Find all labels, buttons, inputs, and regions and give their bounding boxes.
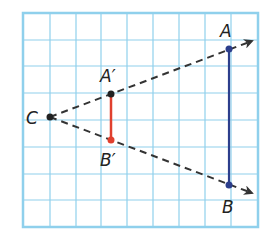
point-a	[226, 46, 233, 53]
point-b-prime	[108, 137, 115, 144]
label-c: C	[26, 108, 38, 128]
label-a: A	[219, 21, 232, 41]
label-b: B	[222, 197, 234, 217]
dilation-diagram: C A B A′ B′	[0, 0, 264, 238]
ray-cb	[50, 117, 252, 193]
point-b	[226, 182, 233, 189]
label-a-prime: A′	[99, 66, 116, 86]
point-a-prime	[108, 91, 115, 98]
point-c	[47, 114, 54, 121]
label-b-prime: B′	[100, 150, 116, 170]
grid	[23, 13, 258, 227]
ray-ca	[50, 41, 252, 117]
rays	[50, 41, 252, 193]
